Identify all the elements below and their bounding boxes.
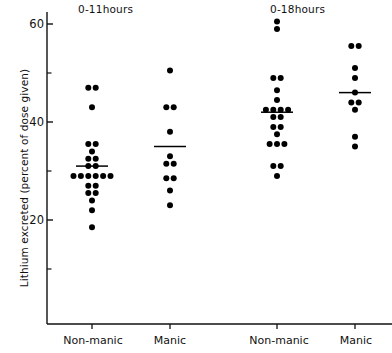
data-point — [85, 85, 91, 91]
data-point — [89, 148, 95, 154]
data-point — [93, 173, 99, 179]
data-point — [85, 156, 91, 162]
data-point — [93, 85, 99, 91]
data-point — [171, 175, 177, 181]
data-point — [171, 104, 177, 110]
data-point — [167, 202, 173, 208]
data-point — [167, 129, 173, 135]
data-point — [270, 114, 276, 120]
data-point — [93, 141, 99, 147]
data-point — [348, 99, 354, 105]
data-point — [93, 156, 99, 162]
data-point — [89, 224, 95, 230]
data-point — [356, 99, 362, 105]
data-point — [278, 75, 284, 81]
data-point — [85, 141, 91, 147]
data-point — [274, 26, 280, 32]
data-point — [281, 141, 287, 147]
data-point — [274, 173, 280, 179]
data-point — [167, 68, 173, 74]
data-point — [163, 161, 169, 167]
data-point — [274, 97, 280, 103]
plot-area — [0, 0, 392, 353]
data-point — [270, 75, 276, 81]
data-point — [270, 124, 276, 130]
data-point — [89, 197, 95, 203]
data-point — [100, 173, 106, 179]
data-point — [163, 175, 169, 181]
data-point — [85, 183, 91, 189]
data-point — [71, 173, 77, 179]
data-point — [85, 173, 91, 179]
scatter-chart-figure: 0-11hours 0-18hours Lithium excreted (pe… — [0, 0, 392, 353]
data-point — [278, 114, 284, 120]
data-point — [93, 183, 99, 189]
data-point — [352, 107, 358, 113]
data-point — [348, 43, 354, 49]
data-point — [171, 161, 177, 167]
data-point — [356, 43, 362, 49]
data-point — [274, 87, 280, 93]
plot-svg — [0, 0, 392, 353]
data-point — [167, 153, 173, 159]
data-point — [274, 131, 280, 137]
data-point — [352, 75, 358, 81]
data-point — [267, 141, 273, 147]
data-point — [278, 124, 284, 130]
data-point — [352, 65, 358, 71]
data-point — [278, 163, 284, 169]
data-point — [352, 134, 358, 140]
data-point — [163, 104, 169, 110]
data-point — [274, 19, 280, 25]
data-point — [89, 104, 95, 110]
data-point — [78, 173, 84, 179]
data-point — [108, 173, 114, 179]
data-point — [85, 190, 91, 196]
data-point — [89, 207, 95, 213]
data-point — [352, 144, 358, 150]
data-point — [167, 188, 173, 194]
data-point — [93, 190, 99, 196]
data-point — [270, 163, 276, 169]
data-point — [274, 141, 280, 147]
